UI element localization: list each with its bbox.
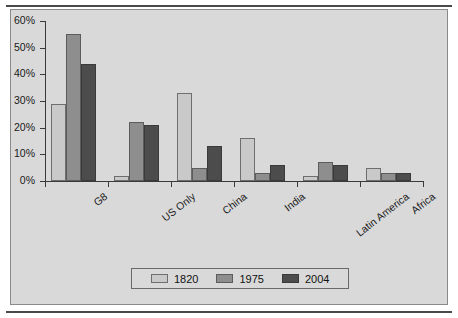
bar [381, 173, 396, 181]
y-axis-tick-label: 0% [20, 174, 35, 186]
x-axis-tick-mark [171, 182, 172, 187]
bar [66, 34, 81, 181]
bar [51, 104, 66, 181]
bar-group [114, 21, 159, 181]
chart-legend: 182019752004 [131, 268, 349, 289]
bars-plot-area [45, 21, 423, 181]
bar [303, 176, 318, 181]
bar [396, 173, 411, 181]
bar [177, 93, 192, 181]
bar [255, 173, 270, 181]
bar-group [177, 21, 222, 181]
legend-swatch [151, 274, 168, 283]
bar [192, 168, 207, 181]
bar-group [366, 21, 411, 181]
x-axis-tick-mark [234, 182, 235, 187]
legend-entry: 1975 [216, 273, 263, 285]
y-axis-tick-label: 50% [14, 41, 35, 53]
x-axis-tick-mark [108, 182, 109, 187]
x-axis-tick-mark [45, 182, 46, 187]
bar [129, 122, 144, 181]
x-axis-tick-mark [423, 182, 424, 187]
cropped-title-text [8, 0, 448, 2]
bar [114, 176, 129, 181]
bar [270, 165, 285, 181]
bar-group [51, 21, 96, 181]
x-axis-tick-mark [297, 182, 298, 187]
y-axis-tick-label: 30% [14, 94, 35, 106]
y-axis-tick-label: 40% [14, 67, 35, 79]
chart-figure: 0%10%20%30%40%50%60% G8US OnlyChinaIndia… [0, 0, 458, 318]
y-axis-tick-label: 20% [14, 121, 35, 133]
y-axis-tick-label: 10% [14, 147, 35, 159]
bar-group [303, 21, 348, 181]
bottom-divider-rule [6, 311, 452, 313]
bar [81, 64, 96, 181]
x-axis-tick-mark [360, 182, 361, 187]
legend-label: 2004 [305, 273, 329, 285]
bar [333, 165, 348, 181]
bar-group [240, 21, 285, 181]
bar [240, 138, 255, 181]
y-axis-tick-label: 60% [14, 14, 35, 26]
legend-entry: 2004 [282, 273, 329, 285]
legend-label: 1820 [174, 273, 198, 285]
bar [318, 162, 333, 181]
legend-label: 1975 [239, 273, 263, 285]
bar [207, 146, 222, 181]
legend-swatch [282, 274, 299, 283]
bar [366, 168, 381, 181]
bar [144, 125, 159, 181]
legend-swatch [216, 274, 233, 283]
top-divider-rule [6, 5, 452, 7]
legend-entry: 1820 [151, 273, 198, 285]
